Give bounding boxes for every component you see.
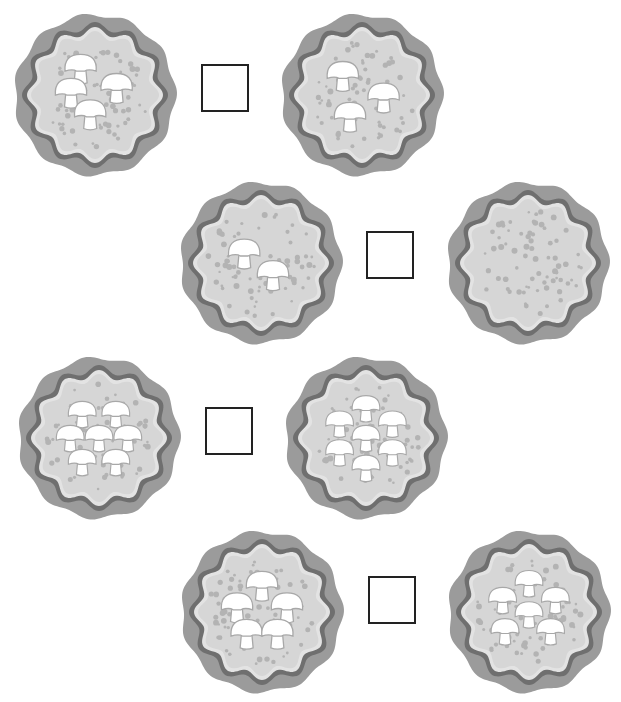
- cheese-dot: [555, 277, 558, 280]
- cheese-dot: [547, 256, 551, 260]
- cheese-dot: [405, 438, 410, 443]
- cheese-dot: [416, 445, 421, 450]
- cheese-dot: [128, 61, 133, 66]
- cheese-dot: [387, 394, 390, 397]
- cheese-dot: [573, 626, 576, 629]
- cheese-dot: [478, 620, 483, 625]
- cheese-dot: [73, 389, 76, 392]
- cheese-dot: [99, 126, 103, 130]
- cheese-dot: [143, 444, 147, 448]
- cheese-dot: [52, 121, 55, 124]
- cheese-dot: [286, 652, 289, 655]
- cheese-dot: [532, 220, 536, 224]
- cheese-dot: [224, 259, 229, 264]
- cheese-dot: [55, 457, 60, 462]
- cheese-dot: [249, 277, 252, 280]
- cheese-dot: [504, 242, 507, 245]
- cheese-dot: [558, 298, 563, 303]
- answer-box-row2[interactable]: [366, 231, 414, 279]
- cheese-dot: [300, 265, 305, 270]
- cheese-dot: [553, 615, 557, 619]
- cheese-dot: [325, 85, 327, 87]
- cheese-dot: [503, 277, 509, 283]
- cheese-dot: [378, 386, 382, 390]
- cheese-dot: [301, 286, 304, 289]
- cheese-dot: [119, 70, 122, 73]
- cheese-dot: [118, 59, 122, 63]
- cheese-dot: [279, 569, 283, 573]
- cheese-dot: [92, 142, 95, 145]
- cheese-dot: [268, 254, 272, 258]
- cheese-dot: [304, 254, 308, 258]
- cheese-dot: [138, 103, 141, 106]
- answer-box-row1[interactable]: [201, 64, 249, 112]
- cheese-dot: [295, 259, 301, 265]
- cheese-dot: [561, 615, 566, 620]
- cheese-dot: [397, 75, 402, 80]
- cheese-dot: [528, 211, 530, 213]
- cheese-dot: [529, 246, 534, 251]
- cheese-dot: [362, 88, 366, 92]
- cheese-dot: [218, 271, 220, 273]
- cheese-dot: [521, 643, 527, 649]
- cheese-dot: [507, 229, 510, 232]
- cheese-dot: [410, 459, 414, 463]
- cheese-dot: [255, 300, 258, 303]
- cheese-dot: [390, 60, 395, 65]
- answer-box-row4[interactable]: [368, 576, 416, 624]
- cheese-dot: [327, 89, 333, 95]
- cheese-dot: [336, 137, 340, 141]
- cheese-dot: [215, 262, 220, 267]
- cheese-dot: [536, 289, 539, 292]
- cheese-dot: [282, 655, 285, 658]
- cheese-dot: [58, 70, 64, 76]
- cheese-dot: [99, 51, 102, 54]
- cheese-dot: [61, 122, 65, 126]
- cheese-dot: [63, 132, 67, 136]
- cheese-dot: [218, 580, 223, 585]
- cheese-dot: [512, 248, 518, 254]
- cheese-dot: [105, 420, 110, 425]
- cheese-dot: [133, 400, 139, 406]
- cheese-dot: [228, 586, 233, 591]
- cheese-dot: [297, 616, 300, 619]
- cheese-dot: [529, 636, 532, 639]
- cheese-dot: [126, 117, 130, 121]
- cheese-dot: [305, 627, 310, 632]
- pizza-row3-right: [281, 353, 451, 523]
- cheese-dot: [73, 142, 77, 146]
- pizza-row2-right: [443, 178, 613, 348]
- cheese-dot: [73, 476, 76, 479]
- cheese-dot: [309, 621, 314, 626]
- cheese-dot: [233, 275, 237, 279]
- cheese-dot: [574, 284, 578, 288]
- cheese-dot: [289, 241, 293, 245]
- cheese-dot: [551, 278, 556, 283]
- cheese-dot: [233, 574, 236, 577]
- cheese-dot: [520, 652, 523, 655]
- cheese-dot: [54, 424, 59, 429]
- cheese-dot: [530, 560, 533, 563]
- cheese-dot: [557, 289, 562, 294]
- cheese-dot: [238, 588, 242, 592]
- cheese-dot: [322, 458, 326, 462]
- cheese-dot: [49, 461, 54, 466]
- cheese-dot: [114, 393, 117, 396]
- cheese-dot: [234, 283, 240, 289]
- cheese-dot: [398, 129, 402, 133]
- cheese-dot: [327, 438, 330, 441]
- cheese-dot: [561, 605, 565, 609]
- cheese-dot: [330, 116, 334, 120]
- cheese-dot: [133, 84, 136, 87]
- cheese-dot: [531, 564, 534, 567]
- cheese-dot: [516, 289, 521, 294]
- cheese-dot: [523, 254, 528, 259]
- cheese-dot: [126, 95, 131, 100]
- cheese-dot: [232, 264, 237, 269]
- cheese-dot: [94, 56, 97, 59]
- cheese-dot: [135, 472, 138, 475]
- cheese-dot: [576, 253, 580, 257]
- cheese-dot: [217, 228, 222, 233]
- answer-box-row3[interactable]: [205, 407, 253, 455]
- cheese-dot: [65, 109, 69, 113]
